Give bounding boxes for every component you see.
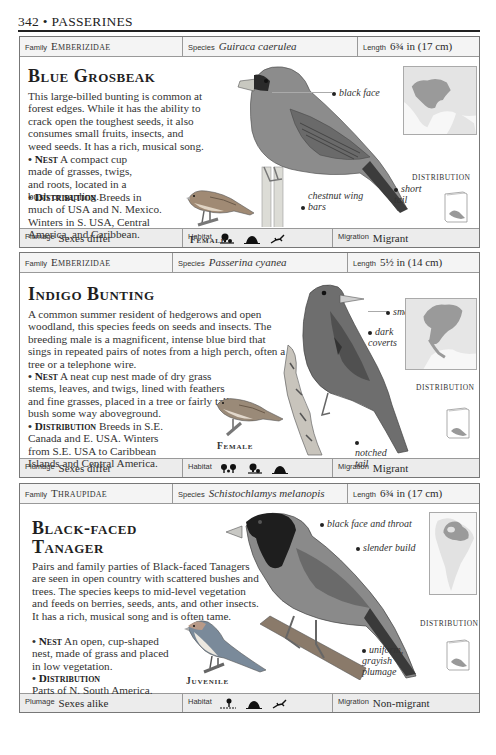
distribution-map: [403, 66, 477, 135]
species-value: Guiraca caerulea: [219, 40, 297, 52]
card-body: Blue Grosbeak This large-billed bunting …: [20, 57, 479, 228]
plumage-value: Sexes alike: [59, 697, 109, 709]
bullet: •: [28, 191, 32, 203]
bullet: •: [28, 370, 32, 382]
family-label: Family: [25, 43, 47, 52]
callout-dot: [394, 188, 398, 192]
callout-text: notched tail: [355, 447, 387, 469]
bullet: •: [28, 153, 32, 165]
callout-notched-tail: notched tail: [355, 436, 389, 469]
distribution-map: [429, 512, 477, 595]
callout-black-face: black face: [332, 87, 380, 98]
migration-value: Non-migrant: [373, 697, 430, 709]
migration-field: MigrationNon-migrant: [333, 694, 479, 712]
description: This large-billed bunting is common at f…: [28, 90, 206, 152]
distribution-heading: Distribution: [35, 191, 96, 203]
habitat-field: Habitat: [183, 459, 333, 477]
bullet: •: [28, 420, 32, 432]
callout-text: black face and throat: [327, 518, 412, 529]
nest-heading: Nest: [35, 153, 58, 165]
card-header: FamilyThraupidae SpeciesSchistochlamys m…: [20, 484, 479, 504]
distribution-map-label: DISTRIBUTION: [416, 383, 475, 392]
callout-text: dark coverts: [368, 326, 397, 348]
family-label: Family: [25, 259, 47, 268]
length-field: Length6¾ in (17 cm): [358, 37, 479, 56]
species-field: SpeciesPasserina cyanea: [173, 253, 348, 272]
description-text: A common summer resident of hedgerows an…: [28, 308, 285, 370]
callout-leader: [272, 92, 332, 93]
female-bird-illustration: [213, 393, 285, 437]
species-value: Passerina cyanea: [209, 256, 287, 268]
length-value: 5½ in (14 cm): [380, 256, 442, 268]
nest-heading: Nest: [39, 635, 62, 647]
callout-text: uniform, grayish plumage: [362, 644, 403, 677]
length-field: Length5½ in (14 cm): [348, 253, 479, 272]
bullet: •: [32, 635, 36, 647]
description-text: This large-billed bunting is common at f…: [28, 90, 204, 152]
callout-dot: [362, 649, 366, 653]
nest-section: • Nest An open, cup-shaped nest, made of…: [32, 635, 172, 672]
family-value: Thraupidae: [51, 487, 107, 499]
length-label: Length: [363, 43, 386, 52]
distribution-text: Parts of N. South America.: [32, 684, 153, 696]
callout-dark-coverts: dark coverts: [368, 326, 408, 348]
inset-label: Female: [217, 441, 253, 451]
scrub-icon: [272, 464, 288, 474]
callout-dot: [356, 547, 360, 551]
family-value: Emberizidae: [51, 256, 110, 268]
separator: •: [43, 14, 48, 29]
species-card-black-faced-tanager: FamilyThraupidae SpeciesSchistochlamys m…: [19, 483, 480, 713]
running-head: 342 • PASSERINES: [18, 14, 480, 32]
distribution-section: • Distribution Breeds in much of USA and…: [28, 191, 168, 241]
migration-field: MigrationMigrant: [333, 229, 479, 247]
callout-leader: [368, 311, 388, 312]
section-title: PASSERINES: [52, 14, 133, 29]
family-field: FamilyEmberizidae: [20, 37, 183, 56]
size-comparison-icon: [445, 638, 471, 672]
description: A common summer resident of hedgerows an…: [28, 308, 286, 370]
scrub-icon: [246, 699, 262, 709]
species-label: Species: [188, 43, 215, 52]
scattered-tree-icon: [220, 698, 236, 709]
species-title: Indigo Bunting: [28, 285, 155, 304]
migration-label: Migration: [338, 697, 369, 706]
family-label: Family: [25, 490, 47, 499]
callout-chestnut-wing-bars: chestnut wing bars: [301, 190, 368, 212]
card-header: FamilyEmberizidae SpeciesGuiraca caerule…: [20, 37, 479, 57]
callout-dot: [320, 523, 324, 527]
callout-text: black face: [339, 87, 380, 98]
inset-label: Female: [190, 235, 226, 245]
distribution-map-label: DISTRIBUTION: [420, 619, 479, 628]
length-label: Length: [353, 490, 376, 499]
plumage-label: Plumage: [25, 697, 55, 706]
species-card-blue-grosbeak: FamilyEmberizidae SpeciesGuiraca caerule…: [19, 36, 480, 248]
callout-dot: [301, 206, 305, 210]
family-field: FamilyThraupidae: [20, 484, 173, 503]
family-field: FamilyEmberizidae: [20, 253, 173, 272]
callout-black-face-and-throat: black face and throat: [320, 518, 412, 529]
callout-text: slender build: [363, 542, 416, 553]
callout-dot: [386, 311, 390, 315]
nest-section: • Nest A neat cup nest made of dry grass…: [28, 370, 233, 420]
distribution-heading: Distribution: [39, 672, 100, 684]
species-title: Blue Grosbeak: [28, 67, 155, 86]
forest-edge-icon: [248, 463, 262, 474]
habitat-label: Habitat: [188, 462, 212, 471]
species-field: SpeciesSchistochlamys melanopis: [173, 484, 348, 503]
species-title: Black-faced Tanager: [32, 519, 182, 557]
species-card-indigo-bunting: FamilyEmberizidae SpeciesPasserina cyane…: [19, 252, 480, 478]
callout-slender-build: slender build: [356, 542, 416, 553]
callout-text: short tail: [394, 183, 422, 205]
species-value: Schistochlamys melanopis: [209, 487, 325, 499]
card-body: Black-faced Tanager Pairs and family par…: [20, 504, 479, 693]
page-number: 342: [18, 14, 39, 29]
callout-dot: [332, 92, 336, 96]
habitat-label: Habitat: [188, 697, 212, 706]
habitat-field: Habitat: [183, 694, 333, 712]
callout-dot: [368, 331, 372, 335]
distribution-heading: Distribution: [35, 420, 96, 432]
nest-heading: Nest: [35, 370, 58, 382]
species-field: SpeciesGuiraca caerulea: [183, 37, 358, 56]
size-comparison-icon: [443, 190, 469, 224]
migration-label: Migration: [338, 232, 369, 241]
